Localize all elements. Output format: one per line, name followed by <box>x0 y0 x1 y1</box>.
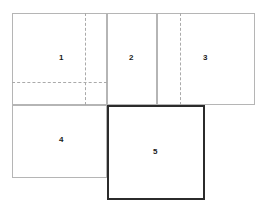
diagram-canvas: 1 2 3 4 5 <box>0 0 266 210</box>
panel-3-label: 3 <box>203 54 208 62</box>
vertical-guide-panel-3-icon <box>180 13 181 105</box>
panel-2-label: 2 <box>129 54 134 62</box>
vertical-guide-panel-1-icon <box>85 13 86 105</box>
panel-5-label: 5 <box>153 148 158 156</box>
panel-4-label: 4 <box>59 136 64 144</box>
panel-1-label: 1 <box>59 54 64 62</box>
horizontal-guide-panel-1-icon <box>12 82 107 83</box>
